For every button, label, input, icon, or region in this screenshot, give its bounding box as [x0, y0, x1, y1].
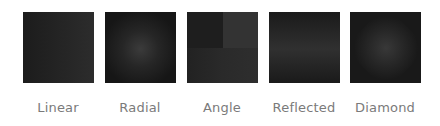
- reflected-gradient-swatch[interactable]: [269, 12, 340, 83]
- gradient-option-linear[interactable]: Linear: [23, 12, 94, 83]
- diamond-gradient-swatch[interactable]: [350, 12, 421, 83]
- gradient-option-radial[interactable]: Radial: [105, 12, 176, 83]
- gradient-option-angle[interactable]: Angle: [187, 12, 258, 83]
- angle-upper-right-quadrant: [223, 12, 259, 48]
- angle-lower-half: [187, 48, 258, 84]
- angle-gradient-swatch[interactable]: [187, 12, 258, 83]
- gradient-label: Diamond: [335, 100, 435, 115]
- gradient-option-reflected[interactable]: Reflected: [269, 12, 340, 83]
- radial-gradient-swatch[interactable]: [105, 12, 176, 83]
- gradient-option-diamond[interactable]: Diamond: [350, 12, 421, 83]
- linear-gradient-swatch[interactable]: [23, 12, 94, 83]
- diamond-shape: [350, 12, 421, 83]
